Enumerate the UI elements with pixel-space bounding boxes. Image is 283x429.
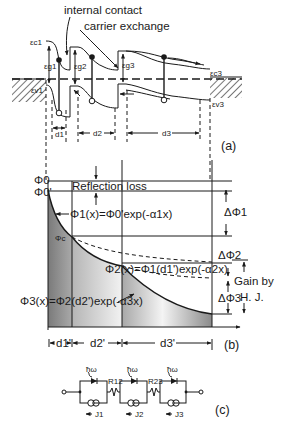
reflection-loss-label: Reflection loss [72, 180, 147, 192]
r23-label: R23 [148, 377, 163, 386]
j3-label: J3 [175, 410, 184, 419]
electron-hole-pairs [56, 54, 167, 116]
eg1-label: εg1 [44, 62, 57, 71]
panel-a-label: (a) [221, 139, 236, 153]
phi0-prime-label: Φ0' [34, 186, 52, 198]
d1-prime-label: d1' [56, 337, 71, 349]
photon-label-1: ħω [86, 365, 97, 374]
j2-label: J2 [135, 410, 144, 419]
panel-c-label: (c) [215, 403, 230, 417]
layer-boundaries [46, 80, 210, 180]
d3-label: d3 [162, 129, 171, 138]
d2-prime-label: d2' [90, 337, 105, 349]
thickness-ruler [49, 339, 212, 350]
layer2-absorption-shade [72, 237, 122, 327]
photon-label-3: ħω [167, 365, 178, 374]
panel-b-label: (b) [224, 338, 239, 352]
delta-phi3-label: ΔΦ3 [218, 292, 241, 304]
internal-contact-label: internal contact [64, 4, 143, 16]
eq-phi1: Φ1(x)=Φ0'exp(-α1x) [70, 208, 172, 220]
left-terminal [62, 390, 66, 394]
r12-label: R12 [108, 377, 123, 386]
panel-b-flux-decay: Φ0 Φ0' Reflection loss Φ1(x)=Φ0'exp(-α1x… [20, 160, 274, 352]
resistor-r12 [107, 388, 120, 396]
delta-phi1-label: ΔΦ1 [224, 206, 247, 218]
ev1-label: εv1 [31, 86, 44, 95]
phic-label: Φc [55, 234, 65, 243]
photon-label-2: ħω [127, 365, 138, 374]
subcell-2 [120, 372, 147, 406]
phi0-label: Φ0 [34, 174, 50, 186]
eq-phi2: Φ2(x)=Φ1(d1')exp(-α2x) [105, 263, 228, 275]
d3-prime-label: d3' [160, 337, 175, 349]
tandem-solar-cell-figure: internal contact carrier exchange [0, 0, 283, 429]
d2-label: d2 [93, 129, 102, 138]
gain-label-line1: Gain by [234, 275, 274, 287]
eg2-label: εg2 [74, 62, 87, 71]
right-terminal [199, 390, 203, 394]
subcell-1 [79, 372, 107, 406]
panel-a-band-diagram: internal contact carrier exchange [12, 4, 242, 180]
resistor-r23 [147, 388, 160, 396]
hole-flow-arrow-2 [74, 90, 80, 96]
panel-c-equivalent-circuit: ħω ħω ħω R12 R23 J1 J2 J3 (c) [62, 365, 230, 419]
j1-label: J1 [95, 410, 104, 419]
d1-label: d1 [55, 130, 64, 139]
valence-band [46, 84, 210, 117]
gain-label-line2: H. J. [240, 291, 264, 303]
subcell-3 [160, 372, 187, 406]
eg3-label: εg3 [122, 61, 135, 70]
right-contact-hatch [210, 78, 242, 98]
internal-contact-arrow [66, 17, 70, 55]
ec3-label: εc3 [210, 69, 223, 78]
ec1-label: εc1 [30, 38, 43, 47]
delta-phi2-label: ΔΦ2 [218, 249, 241, 261]
carrier-exchange-label: carrier exchange [84, 20, 170, 32]
eq-phi3: Φ3(x)=Φ2(d2')exp(-α3x) [20, 295, 143, 307]
ev3-label: εv3 [212, 100, 225, 109]
